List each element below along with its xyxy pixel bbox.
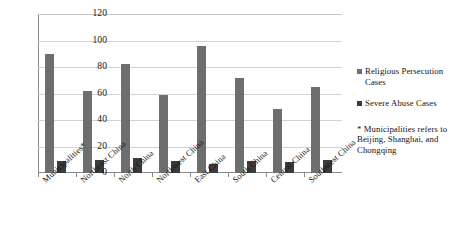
legend-swatch-icon — [357, 69, 362, 74]
legend-swatch-icon — [357, 101, 362, 106]
legend-label: Severe Abuse Cases — [365, 98, 437, 109]
y-axis-tick-label: 80 — [77, 62, 107, 72]
x-axis-category-labels: Municipalities*Northeast ChinaNorth Chin… — [38, 177, 342, 238]
bar-religious-persecution — [311, 87, 320, 173]
y-axis-tick-label: 120 — [77, 9, 107, 19]
y-axis-tick-label: 100 — [77, 36, 107, 46]
bar-religious-persecution — [83, 91, 92, 173]
x-axis-label-slot: Municipalities* — [38, 177, 76, 238]
x-axis-label-slot: East China — [190, 177, 228, 238]
x-axis-label-slot: North China — [114, 177, 152, 238]
x-axis-label-slot: Northeast China — [76, 177, 114, 238]
bar-religious-persecution — [197, 46, 206, 173]
legend-footnote: * Municipalities refers to Beijing, Shan… — [357, 124, 454, 156]
legend-label: Religious Persecution Cases — [365, 66, 454, 87]
bar-religious-persecution — [159, 95, 168, 173]
bar-religious-persecution — [235, 78, 244, 173]
bar-religious-persecution — [273, 109, 282, 173]
chart-legend: Religious Persecution CasesSevere Abuse … — [357, 66, 454, 155]
bar-chart-figure: 020406080100120 Municipalities*Northeast… — [0, 0, 454, 238]
y-axis-tick-label: 40 — [77, 115, 107, 125]
x-axis-label-slot: Northwest China — [152, 177, 190, 238]
x-axis-label-slot: Southwest China — [304, 177, 342, 238]
y-axis-tick-label: 60 — [77, 89, 107, 99]
bar-religious-persecution — [121, 64, 130, 173]
x-axis-label-slot: South China — [228, 177, 266, 238]
bar-religious-persecution — [45, 54, 54, 173]
x-axis-label-slot: Central China — [266, 177, 304, 238]
legend-entry: Religious Persecution Cases — [357, 66, 454, 87]
legend-entry: Severe Abuse Cases — [357, 98, 454, 109]
legend-entries: Religious Persecution CasesSevere Abuse … — [357, 66, 454, 109]
